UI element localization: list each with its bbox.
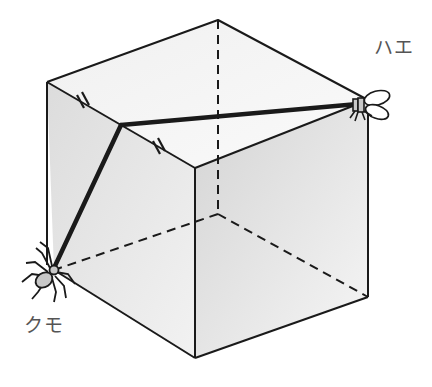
cube-diagram xyxy=(0,0,432,387)
fly-label: ハエ xyxy=(374,38,414,57)
spider-label: クモ xyxy=(24,316,64,335)
